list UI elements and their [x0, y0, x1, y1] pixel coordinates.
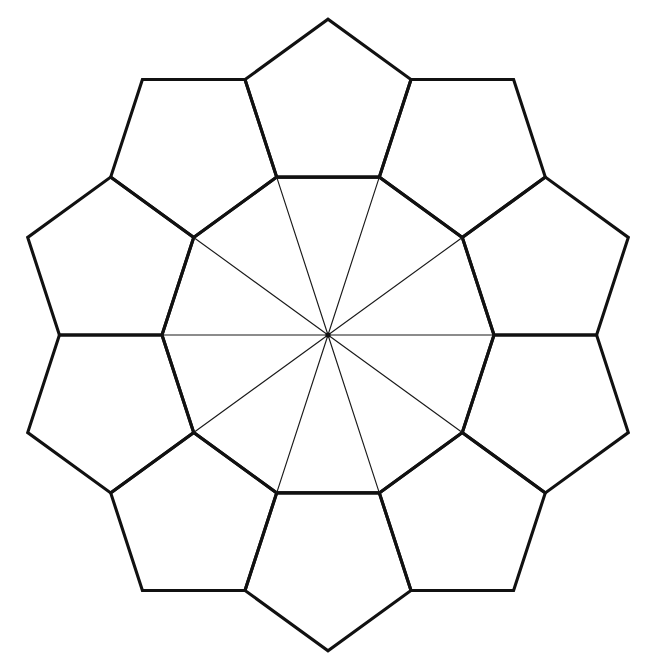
center-point-marker — [325, 332, 330, 337]
radial-spoke-72 — [328, 177, 379, 335]
radial-spoke-288 — [328, 335, 379, 493]
radial-spoke-252 — [277, 335, 328, 493]
radial-spoke-216 — [194, 335, 328, 433]
ring-pentagon-9 — [379, 433, 545, 591]
center-marker-group — [325, 332, 330, 337]
radial-spoke-108 — [277, 177, 328, 335]
radial-spoke-324 — [328, 335, 462, 433]
figure-canvas: Pentagonal rosette Regular decagon at ce… — [0, 0, 653, 670]
ring-pentagon-4 — [111, 80, 277, 238]
pentagonal-rosette-diagram: Pentagonal rosette Regular decagon at ce… — [0, 0, 653, 670]
radial-spoke-144 — [194, 237, 328, 335]
radial-spoke-36 — [328, 237, 462, 335]
